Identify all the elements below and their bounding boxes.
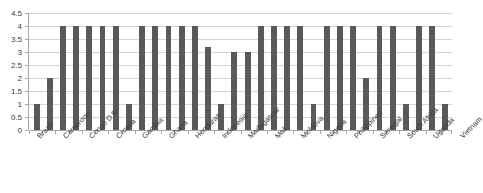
x-tick-label: Vietnam <box>458 115 483 141</box>
y-tick-label: 3.5 <box>11 35 22 44</box>
bar[interactable] <box>179 26 185 130</box>
y-tick-label: 2 <box>18 74 22 83</box>
bar-slot <box>254 13 267 130</box>
bar[interactable] <box>416 26 422 130</box>
y-tick-label: 0 <box>18 126 22 135</box>
bar-slot <box>307 13 320 130</box>
bar[interactable] <box>350 26 356 130</box>
bar-slot <box>347 13 360 130</box>
bar[interactable] <box>152 26 158 130</box>
bar-slot <box>320 13 333 130</box>
bar-slot <box>188 13 201 130</box>
bar[interactable] <box>192 26 198 130</box>
bar-slot <box>333 13 346 130</box>
bar-slot <box>281 13 294 130</box>
y-tick-label: 1.5 <box>11 87 22 96</box>
bar-slot <box>360 13 373 130</box>
y-tick-label: 2.5 <box>11 61 22 70</box>
y-tick-label: 4 <box>18 22 22 31</box>
bar[interactable] <box>284 26 290 130</box>
bar-slot <box>56 13 69 130</box>
bar-slot <box>162 13 175 130</box>
bar[interactable] <box>60 26 66 130</box>
bar-slot <box>439 13 452 130</box>
bar[interactable] <box>258 26 264 130</box>
y-tick-label: 3 <box>18 48 22 57</box>
bar-slot <box>228 13 241 130</box>
bar[interactable] <box>390 26 396 130</box>
bar[interactable] <box>34 104 40 130</box>
x-axis-labels: BrazilCameroonCongo D RCroatiaGambiaGhan… <box>29 134 452 193</box>
y-tick-label: 1 <box>18 100 22 109</box>
bar-slot <box>175 13 188 130</box>
y-axis: 00.511.522.533.544.5 <box>0 13 26 130</box>
bar-slot <box>122 13 135 130</box>
y-tick-label: 4.5 <box>11 9 22 18</box>
bar[interactable] <box>100 26 106 130</box>
bar[interactable] <box>139 26 145 130</box>
bar[interactable] <box>166 26 172 130</box>
bar-slot <box>149 13 162 130</box>
bar[interactable] <box>73 26 79 130</box>
bar-slot <box>30 13 43 130</box>
bar-slot <box>412 13 425 130</box>
bar-slot <box>136 13 149 130</box>
bar[interactable] <box>324 26 330 130</box>
bar-slot <box>294 13 307 130</box>
bar[interactable] <box>403 104 409 130</box>
bar-slot <box>386 13 399 130</box>
bar-slot <box>43 13 56 130</box>
bar[interactable] <box>297 26 303 130</box>
y-tick-label: 0.5 <box>11 113 22 122</box>
bar-slot <box>399 13 412 130</box>
bar[interactable] <box>337 26 343 130</box>
